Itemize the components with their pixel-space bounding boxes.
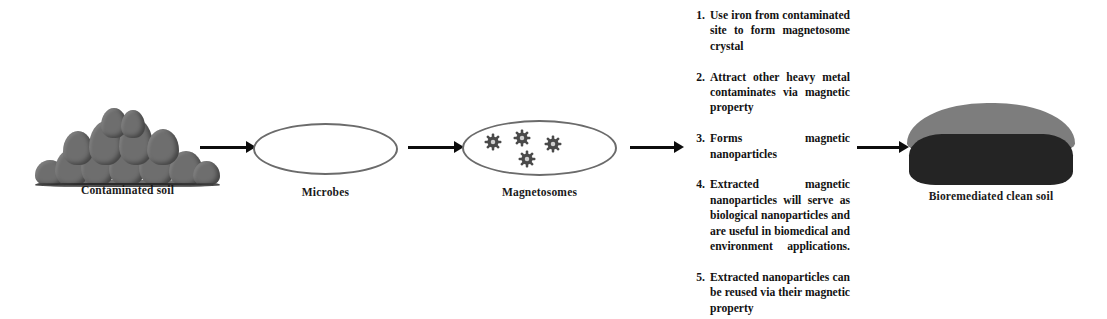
process-step-item: 5. Extracted nanoparticles can be reused… — [687, 270, 850, 319]
magnetosomes-graphic — [462, 120, 617, 176]
caption-bioremediated-soil: Bioremediated clean soil — [897, 190, 1085, 202]
step-text: Use iron from contaminated site to form … — [710, 8, 850, 70]
process-steps-list: 1. Use iron from contaminated site to fo… — [687, 8, 850, 319]
bioremediated-soil-graphic — [907, 103, 1075, 185]
caption-contaminated-soil: Contaminated soil — [35, 184, 220, 196]
microbes-graphic — [253, 123, 398, 175]
step-text: Extracted nanoparticles can be reused vi… — [710, 270, 850, 319]
caption-magnetosomes: Magnetosomes — [462, 186, 617, 198]
step-number: 4. — [687, 177, 705, 192]
step-text: Forms magnetic nanoparticles — [710, 131, 850, 177]
magnetosome-particle-icon — [513, 129, 531, 147]
magnetosome-particle-icon — [544, 135, 562, 153]
magnetosome-particle-icon — [518, 150, 536, 168]
contaminated-soil-graphic — [35, 105, 220, 187]
step-number: 1. — [687, 8, 705, 23]
step-text: Extracted magnetic nanoparticles will se… — [710, 177, 850, 269]
arrow-soil-to-microbes — [200, 141, 256, 153]
process-step-item: 3. Forms magnetic nanoparticles — [687, 131, 850, 177]
process-step-item: 2. Attract other heavy metal contaminate… — [687, 70, 850, 132]
arrow-microbes-to-magnetosomes — [408, 141, 464, 153]
magnetosome-particle-icon — [484, 133, 502, 151]
soil-lump — [121, 110, 145, 138]
process-step-item: 1. Use iron from contaminated site to fo… — [687, 8, 850, 70]
arrow-steps-to-clean-soil — [857, 141, 909, 153]
step-number: 3. — [687, 131, 705, 146]
clean-soil-dark-layer — [909, 134, 1074, 185]
arrow-magnetosomes-to-steps — [630, 141, 684, 153]
caption-microbes: Microbes — [253, 186, 398, 198]
process-step-item: 4. Extracted magnetic nanoparticles will… — [687, 177, 850, 269]
step-text: Attract other heavy metal contaminates v… — [710, 70, 850, 132]
step-number: 5. — [687, 270, 705, 285]
step-number: 2. — [687, 70, 705, 85]
soil-lump — [193, 161, 220, 186]
soil-lump — [147, 129, 179, 165]
